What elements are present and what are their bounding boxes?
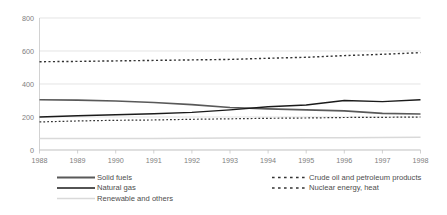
series-line-solid-fuels — [40, 100, 421, 114]
x-tick-label-1991: 1991 — [146, 156, 162, 165]
legend-item-solid-fuels: Solid fuels — [57, 173, 132, 182]
chart-legend: Solid fuelsNatural gasRenewable and othe… — [57, 173, 421, 203]
y-tick-label-200: 200 — [22, 113, 34, 122]
legend-item-natural-gas: Natural gas — [57, 183, 136, 192]
y-tick-label-400: 400 — [22, 80, 34, 89]
x-axis-tick-labels: 1988198919901991199219931994199519961997… — [32, 156, 429, 165]
data-series-group — [40, 53, 421, 139]
x-tick-label-1990: 1990 — [108, 156, 124, 165]
legend-item-crude-oil-and-petroleum-products: Crude oil and petroleum products — [272, 173, 421, 182]
x-tick-label-1998: 1998 — [413, 156, 429, 165]
legend-item-renewable-and-others: Renewable and others — [57, 194, 173, 203]
y-axis-tick-labels: 8006004002000 — [22, 14, 34, 155]
gridlines — [40, 18, 421, 150]
x-tick-label-1993: 1993 — [222, 156, 238, 165]
x-tick-label-1989: 1989 — [70, 156, 86, 165]
x-axis — [40, 150, 421, 154]
legend-label-natural-gas: Natural gas — [97, 183, 136, 192]
x-tick-label-1995: 1995 — [298, 156, 314, 165]
series-line-nuclear-energy-heat — [40, 117, 421, 122]
line-chart: 8006004002000 19881989199019911992199319… — [0, 0, 447, 215]
y-tick-label-0: 0 — [30, 146, 34, 155]
y-tick-label-800: 800 — [22, 14, 34, 23]
x-tick-label-1997: 1997 — [374, 156, 390, 165]
legend-label-renewable-and-others: Renewable and others — [97, 194, 173, 203]
x-tick-label-1996: 1996 — [336, 156, 352, 165]
chart-canvas: 8006004002000 19881989199019911992199319… — [0, 0, 447, 215]
x-tick-label-1992: 1992 — [184, 156, 200, 165]
legend-label-solid-fuels: Solid fuels — [97, 173, 132, 182]
series-line-natural-gas — [40, 100, 421, 117]
x-tick-label-1988: 1988 — [32, 156, 48, 165]
y-tick-label-600: 600 — [22, 47, 34, 56]
legend-label-crude-oil-and-petroleum-products: Crude oil and petroleum products — [309, 173, 421, 182]
series-line-renewable-and-others — [40, 137, 421, 138]
legend-item-nuclear-energy-heat: Nuclear energy, heat — [272, 183, 380, 192]
series-line-crude-oil-and-petroleum-products — [40, 53, 421, 62]
x-tick-label-1994: 1994 — [260, 156, 276, 165]
legend-label-nuclear-energy-heat: Nuclear energy, heat — [309, 183, 380, 192]
